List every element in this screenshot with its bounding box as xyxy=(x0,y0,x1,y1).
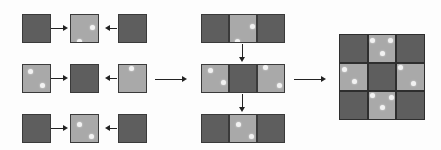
grid-cell xyxy=(396,91,425,120)
cell-dot xyxy=(389,95,394,100)
stage1-tile xyxy=(70,114,99,143)
stage1-tile xyxy=(22,14,51,43)
stage2-tile xyxy=(229,114,257,143)
stage2-tile xyxy=(201,64,229,93)
stage2-tile xyxy=(257,14,285,43)
tile-assembly-diagram xyxy=(0,0,441,150)
cell-dot xyxy=(129,66,134,71)
arrow-line xyxy=(242,44,243,57)
cell-dot xyxy=(40,83,45,88)
cell-dot xyxy=(208,68,213,73)
arrow-right-icon xyxy=(321,76,326,82)
stage2-tile xyxy=(201,14,229,43)
cell-dot xyxy=(380,105,385,110)
grid-cell xyxy=(339,63,368,92)
arrow-line xyxy=(51,78,63,79)
arrow-line xyxy=(110,78,117,79)
grid-cell xyxy=(339,34,368,63)
arrow-line xyxy=(110,128,117,129)
cell-dot xyxy=(352,79,357,84)
cell-dot xyxy=(388,38,393,43)
grid-cell xyxy=(396,63,425,92)
cell-dot xyxy=(77,39,82,43)
cell-dot xyxy=(370,38,375,43)
arrow-right-icon xyxy=(63,25,68,31)
cell-dot xyxy=(235,39,240,43)
stage2-tile xyxy=(257,114,285,143)
stage2-tile xyxy=(257,64,285,93)
grid-cell xyxy=(368,63,397,92)
arrow-right-icon xyxy=(182,76,187,82)
cell-dot xyxy=(342,67,347,72)
grid-cell xyxy=(368,91,397,120)
cell-dot xyxy=(249,134,254,139)
arrow-line xyxy=(110,28,117,29)
stage2-tile xyxy=(229,14,257,43)
stage2-tile xyxy=(201,114,229,143)
arrow-line xyxy=(242,94,243,107)
cell-dot xyxy=(89,134,94,139)
arrow-down-icon xyxy=(239,57,245,62)
stage1-tile xyxy=(118,14,147,43)
cell-dot xyxy=(221,80,226,85)
cell-dot xyxy=(398,65,403,70)
arrow-line xyxy=(51,28,63,29)
arrow-right-icon xyxy=(63,125,68,131)
stage2-tile xyxy=(229,64,257,93)
stage1-tile xyxy=(118,64,147,93)
cell-dot xyxy=(236,122,241,127)
arrow-down-icon xyxy=(239,107,245,112)
grid-cell xyxy=(396,34,425,63)
cell-dot xyxy=(380,51,385,56)
stage1-tile xyxy=(70,14,99,43)
grid-cell xyxy=(368,34,397,63)
cell-dot xyxy=(263,65,268,70)
arrow-right-icon xyxy=(63,75,68,81)
cell-dot xyxy=(250,24,255,29)
arrow-line xyxy=(51,128,63,129)
stage1-tile xyxy=(118,114,147,143)
connector-line xyxy=(294,79,321,80)
cell-dot xyxy=(277,83,282,88)
cell-dot xyxy=(90,25,95,30)
stage1-tile xyxy=(22,114,51,143)
cell-dot xyxy=(28,69,33,74)
stage1-tile xyxy=(22,64,51,93)
stage1-tile xyxy=(70,64,99,93)
grid-cell xyxy=(339,91,368,120)
connector-line xyxy=(155,79,182,80)
cell-dot xyxy=(77,122,82,127)
cell-dot xyxy=(411,81,416,86)
cell-dot xyxy=(370,93,375,98)
